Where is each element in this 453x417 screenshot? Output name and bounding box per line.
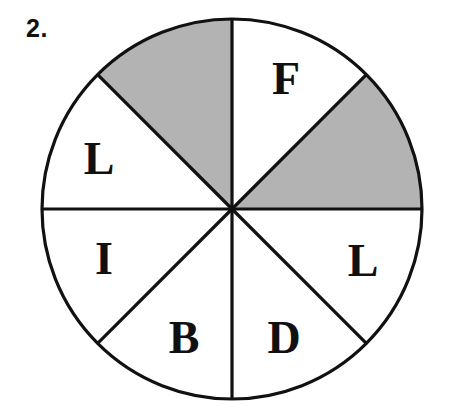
- spinner-figure: 2. FLDBIL: [0, 0, 453, 417]
- sector-label-l-6: L: [84, 133, 115, 184]
- sector-label-b-4: B: [169, 312, 200, 363]
- sector-label-d-3: D: [267, 312, 300, 363]
- sector-divider-lines: [42, 19, 422, 399]
- sector-label-f-0: F: [272, 53, 300, 104]
- sector-label-i-5: I: [95, 233, 113, 284]
- spinner-wheel-diagram: FLDBIL: [0, 0, 453, 417]
- sector-label-l-2: L: [348, 235, 379, 286]
